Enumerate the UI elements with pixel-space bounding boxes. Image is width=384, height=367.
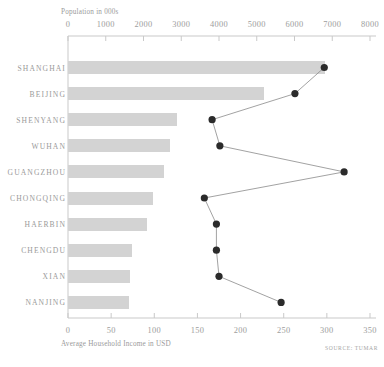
income-marker-shanghai[interactable] bbox=[321, 64, 328, 71]
bottom-tick-350: 350 bbox=[363, 326, 376, 335]
plot-area: SHANGHAIBEIJINGSHENYANGWUHANGUANGZHOUCHO… bbox=[0, 0, 384, 367]
chart-container: Population in 000s 010002000300040005000… bbox=[0, 0, 384, 367]
bottom-tick-100: 100 bbox=[148, 326, 161, 335]
income-marker-chongqing[interactable] bbox=[201, 194, 208, 201]
bottom-tick-300: 300 bbox=[320, 326, 333, 335]
bottom-tick-50: 50 bbox=[107, 326, 116, 335]
bottom-axis-tick-labels: 050100150200250300350 bbox=[0, 326, 384, 338]
bottom-axis-title: Average Household Income in USD bbox=[61, 340, 171, 348]
income-marker-xian[interactable] bbox=[215, 273, 222, 280]
income-marker-haerbin[interactable] bbox=[213, 221, 220, 228]
bottom-tick-200: 200 bbox=[234, 326, 247, 335]
income-marker-guangzhou[interactable] bbox=[341, 168, 348, 175]
income-marker-chengdu[interactable] bbox=[213, 247, 220, 254]
bottom-tick-0: 0 bbox=[66, 326, 71, 335]
income-line-path bbox=[204, 68, 344, 303]
income-line-series bbox=[0, 0, 384, 367]
income-marker-beijing[interactable] bbox=[291, 90, 298, 97]
source-note: SOURCE: TUMAR bbox=[325, 345, 378, 351]
bottom-tick-150: 150 bbox=[191, 326, 204, 335]
income-marker-wuhan[interactable] bbox=[216, 142, 223, 149]
income-marker-shenyang[interactable] bbox=[208, 116, 215, 123]
bottom-tick-250: 250 bbox=[277, 326, 290, 335]
income-marker-nanjing[interactable] bbox=[278, 299, 285, 306]
